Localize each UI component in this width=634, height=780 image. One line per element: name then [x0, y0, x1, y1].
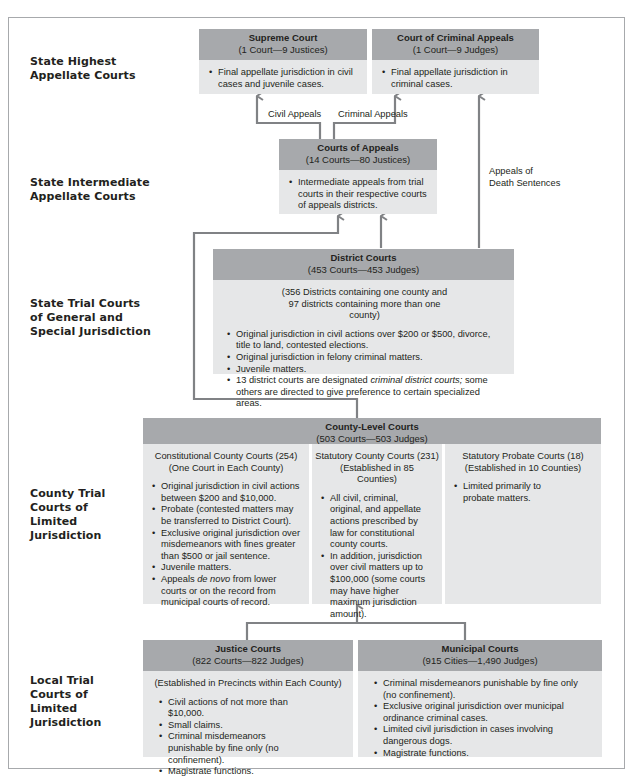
- list-item: All civil, criminal, original, and appel…: [321, 493, 433, 551]
- list-item: Final appellate jurisdiction in civil ca…: [209, 67, 357, 90]
- level-county-trial: County TrialCourts ofLimitedJurisdiction: [30, 487, 105, 543]
- list-item: In addition, jurisdiction over civil mat…: [321, 551, 433, 621]
- level-trial-general: State Trial Courtsof General andSpecial …: [30, 297, 151, 339]
- list-item: Final appellate jurisdiction in criminal…: [382, 67, 529, 90]
- list-item: Original jurisdiction in civil actions o…: [227, 329, 502, 352]
- court-name: Municipal Courts: [362, 643, 598, 655]
- list-item: Limited civil jurisdiction in cases invo…: [374, 724, 584, 747]
- list-item: Small claims.: [159, 720, 313, 732]
- list-item: Original jurisdiction in felony criminal…: [227, 352, 502, 364]
- list-item: Appeals de novo from lower courts or on …: [152, 574, 300, 609]
- level-highest-appellate: State HighestAppellate Courts: [30, 55, 136, 83]
- justice-courts-box: Justice Courts (822 Courts—822 Judges) (…: [143, 640, 353, 757]
- constitutional-county-courts: Constitutional County Courts (254) (One …: [143, 444, 309, 604]
- justice-note: (Established in Precincts within Each Co…: [153, 678, 343, 690]
- court-name: Constitutional County Courts (254): [152, 451, 300, 463]
- district-courts-box: District Courts (453 Courts—453 Judges) …: [213, 249, 514, 374]
- list-item: Juvenile matters.: [152, 562, 300, 574]
- list-item: Civil actions of not more than $10,000.: [159, 697, 313, 720]
- county-level-courts-box: County-Level Courts (503 Courts—503 Judg…: [143, 418, 601, 604]
- supreme-court-box: Supreme Court (1 Court—9 Justices) Final…: [199, 29, 367, 94]
- court-name: Courts of Appeals: [283, 142, 433, 154]
- court-name: District Courts: [217, 252, 510, 264]
- local-to-county-connector: [247, 623, 465, 640]
- court-count: (453 Courts—453 Judges): [217, 264, 510, 276]
- municipal-courts-box: Municipal Courts (915 Cities—1,490 Judge…: [358, 640, 602, 757]
- criminal-appeals-label: Criminal Appeals: [338, 109, 408, 121]
- court-count: (Established in 10 Counties): [454, 463, 592, 475]
- court-count: (14 Courts—80 Justices): [283, 154, 433, 166]
- level-intermediate-appellate: State IntermediateAppellate Courts: [30, 176, 150, 204]
- courts-of-appeals-box: Courts of Appeals (14 Courts—80 Justices…: [279, 139, 437, 214]
- list-item: Magistrate functions.: [159, 766, 313, 778]
- court-count: (One Court in Each County): [152, 463, 300, 475]
- list-item: Exclusive original jurisdiction over mis…: [152, 528, 300, 563]
- list-item: Juvenile matters.: [227, 364, 502, 376]
- death-sentences-label: Appeals of Death Sentences: [489, 166, 560, 189]
- court-count: (915 Cities—1,490 Judges): [362, 655, 598, 667]
- court-count: (1 Court—9 Justices): [203, 44, 363, 56]
- civil-appeals-label: Civil Appeals: [268, 109, 321, 121]
- court-name: Court of Criminal Appeals: [376, 32, 535, 44]
- list-item: Magistrate functions.: [374, 748, 584, 760]
- statutory-probate-courts: Statutory Probate Courts (18) (Establish…: [445, 444, 601, 604]
- list-item: Exclusive original jurisdiction over mun…: [374, 701, 584, 724]
- statutory-county-courts: Statutory County Courts (231) (Establish…: [312, 444, 442, 604]
- court-name: Statutory County Courts (231): [315, 451, 439, 463]
- court-name: County-Level Courts: [147, 421, 597, 433]
- list-item: 13 district courts are designated crimin…: [227, 375, 502, 410]
- court-name: Justice Courts: [147, 643, 349, 655]
- district-note: (356 Districts containing one county and…: [227, 287, 502, 322]
- court-name: Supreme Court: [203, 32, 363, 44]
- list-item: Probate (contested matters may be transf…: [152, 504, 300, 527]
- list-item: Criminal misdemeanors punishable by fine…: [374, 678, 584, 701]
- court-count: (1 Court—9 Judges): [376, 44, 535, 56]
- list-item: Criminal misdemeanors punishable by fine…: [159, 731, 313, 766]
- criminal-appeals-court-box: Court of Criminal Appeals (1 Court—9 Jud…: [372, 29, 539, 94]
- list-item: Original jurisdiction in civil actions b…: [152, 481, 300, 504]
- court-name: Statutory Probate Courts (18): [454, 451, 592, 463]
- list-item: Limited primarily to probate matters.: [454, 481, 562, 504]
- court-count: (822 Courts—822 Judges): [147, 655, 349, 667]
- court-count: (Established in 85 Counties): [321, 463, 433, 486]
- level-local-trial: Local TrialCourts ofLimitedJurisdiction: [30, 674, 101, 730]
- list-item: Intermediate appeals from trial courts i…: [289, 177, 427, 212]
- supreme-court-header: Supreme Court (1 Court—9 Justices): [199, 29, 367, 60]
